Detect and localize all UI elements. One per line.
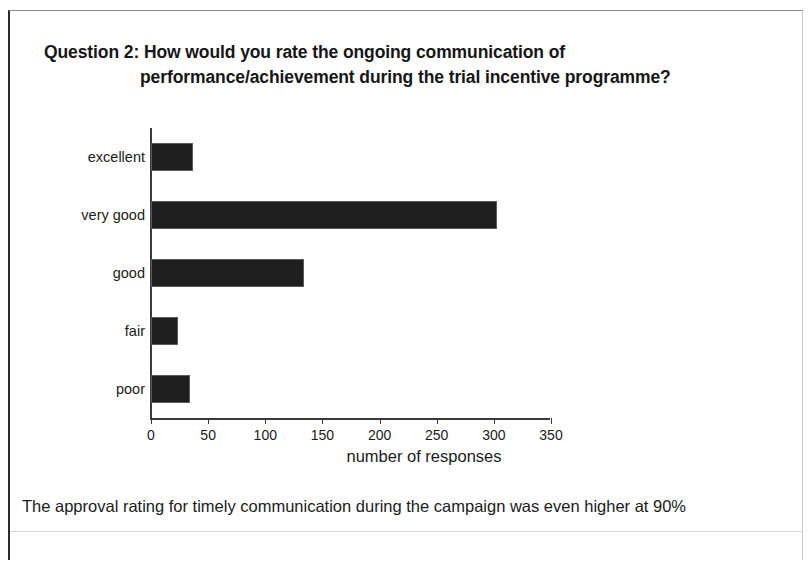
y-axis-label: poor (40, 381, 145, 397)
page-title: Question 2: How would you rate the ongoi… (44, 40, 784, 90)
y-axis-label: excellent (40, 149, 145, 165)
bar (151, 259, 304, 287)
x-axis-tick (551, 418, 552, 424)
x-axis-tick-label: 0 (147, 427, 155, 443)
x-axis-tick-label: 200 (368, 427, 391, 443)
chart-page: Question 2: How would you rate the ongoi… (0, 0, 808, 564)
x-axis-tick (208, 418, 209, 424)
x-axis-tick-label: 300 (482, 427, 505, 443)
footer-note: The approval rating for timely communica… (22, 497, 797, 516)
x-axis-tick (265, 418, 266, 424)
x-axis-tick-label: 100 (254, 427, 277, 443)
y-axis-category-labels: excellentvery goodgoodfairpoor (40, 128, 145, 418)
page-title-line-1: Question 2: How would you rate the ongoi… (44, 40, 784, 65)
footer-separator (10, 531, 803, 532)
bar (151, 375, 190, 403)
bar-chart: excellentvery goodgoodfairpoor 050100150… (0, 118, 808, 448)
x-axis-tick (322, 418, 323, 424)
page-title-line-2: performance/achievement during the trial… (44, 65, 784, 90)
x-axis-tick-label: 50 (200, 427, 216, 443)
y-axis-label: very good (40, 207, 145, 223)
x-axis-tick-label: 350 (539, 427, 562, 443)
bar (151, 143, 193, 171)
x-axis-tick (380, 418, 381, 424)
y-axis-label: fair (40, 323, 145, 339)
x-axis-line (150, 418, 550, 420)
x-axis-tick (151, 418, 152, 424)
x-axis-tick (494, 418, 495, 424)
x-axis-tick-label: 150 (311, 427, 334, 443)
x-axis-tick (437, 418, 438, 424)
plot-area: 050100150200250300350 (151, 128, 551, 418)
bar (151, 201, 497, 229)
x-axis-title: number of responses (0, 447, 808, 466)
y-axis-label: good (40, 265, 145, 281)
x-axis-tick-label: 250 (425, 427, 448, 443)
bar (151, 317, 178, 345)
